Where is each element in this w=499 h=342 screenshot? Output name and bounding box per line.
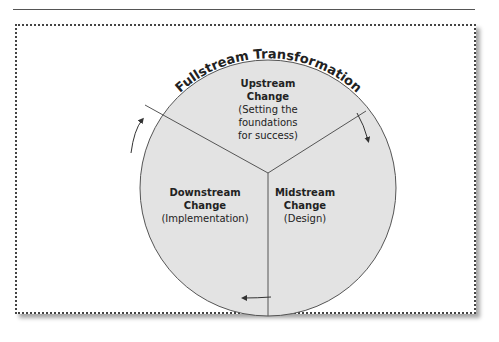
svg-text:foundations: foundations [238,117,297,128]
svg-text:Midstream: Midstream [275,187,335,198]
svg-text:Change: Change [247,91,289,102]
segment-midstream: Midstream Change (Design) [275,187,335,224]
svg-text:Downstream: Downstream [169,187,240,198]
svg-text:Change: Change [184,200,226,211]
svg-text:Change: Change [284,200,326,211]
svg-text:Upstream: Upstream [241,78,296,89]
svg-text:(Design): (Design) [284,213,326,224]
svg-text:(Implementation): (Implementation) [161,213,248,224]
cycle-diagram: Fullstream Transformation Upstream Chang… [0,0,499,342]
arrow-up-left-icon [131,120,142,153]
svg-text:for success): for success) [238,130,298,141]
segment-upstream: Upstream Change (Setting the foundations… [238,78,298,141]
svg-text:(Setting the: (Setting the [238,104,297,115]
